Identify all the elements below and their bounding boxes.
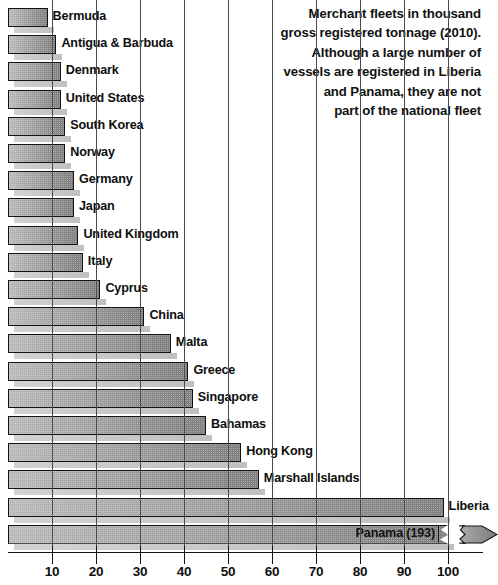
bar-label: Norway [70,143,115,162]
bar-japan[interactable] [8,198,74,217]
bar-label: Hong Kong [246,442,313,461]
bar-label: Denmark [66,61,119,80]
bar-italy[interactable] [8,253,83,272]
bar-shadow [14,81,67,87]
x-axis-tick-label: 10 [45,564,60,579]
bar-label: China [149,306,183,325]
bar-china[interactable] [8,307,144,326]
bar-label: United States [66,89,145,108]
gridline [272,0,273,552]
gridline [184,0,185,552]
bar-shadow [14,462,247,468]
bar-label: Marshall Islands [264,469,360,488]
bar-marshall-islands[interactable] [8,470,259,489]
bar-fill [8,226,78,245]
bar-label: Liberia [449,497,489,516]
x-axis-tick [96,546,97,564]
bar-shadow [14,54,62,60]
bar-label: Bermuda [53,7,107,26]
gridline [228,0,229,552]
x-axis-tick [140,546,141,564]
bar-shadow [14,245,84,251]
bar-bermuda[interactable] [8,8,48,27]
bar-fill [8,498,444,517]
x-axis-tick-label: 80 [353,564,368,579]
bar-bahamas[interactable] [8,416,206,435]
bar-germany[interactable] [8,171,74,190]
gridline [448,0,449,552]
bar-row: Malta [0,332,491,359]
bar-south-korea[interactable] [8,117,65,136]
x-axis-tick [228,546,229,564]
bar-label: Antigua & Barbuda [61,34,173,53]
x-axis-tick [272,546,273,564]
bar-shadow [14,381,194,387]
bar-fill [8,198,74,217]
bar-row: Norway [0,142,491,169]
bar-fill [8,8,48,27]
gridline [140,0,141,552]
bar-fill [8,280,100,299]
bar-shadow [14,435,212,441]
bar-label: Germany [79,170,133,189]
bar-shadow [14,217,80,223]
x-axis: 102030405060708090100 [0,552,491,585]
bar-norway[interactable] [8,144,65,163]
bar-greece[interactable] [8,362,188,381]
bar-label: South Korea [70,116,143,135]
bar-antigua-barbuda[interactable] [8,35,56,54]
bar-label: Cyprus [105,279,148,298]
x-axis-tick [448,546,449,564]
bar-row: Cyprus [0,278,491,305]
bar-shadow [14,163,71,169]
x-axis-tick [360,546,361,564]
x-axis-tick [316,546,317,564]
bar-row: Japan [0,196,491,223]
bar-row: Greece [0,360,491,387]
bar-fill [8,144,65,163]
bar-fill [8,389,193,408]
gridline [316,0,317,552]
x-axis-tick-label: 100 [437,564,459,579]
bar-shadow [14,136,71,142]
bar-united-kingdom[interactable] [8,226,78,245]
bar-fill [8,470,259,489]
bar-fill [8,117,65,136]
gridline [404,0,405,552]
bar-label: Bahamas [211,415,266,434]
bar-label: Panama (193) [356,524,435,543]
bar-fill [8,307,144,326]
bar-row: United States [0,88,491,115]
bar-row: South Korea [0,115,491,142]
bar-row: Liberia [0,496,491,523]
bar-row: Antigua & Barbuda [0,33,491,60]
bar-label: Italy [88,252,112,271]
bar-singapore[interactable] [8,389,193,408]
bar-shadow [14,517,450,523]
x-axis-tick [184,546,185,564]
x-axis-tick-label: 20 [89,564,104,579]
bar-row: Bermuda [0,6,491,33]
bar-shadow [14,326,150,332]
bar-hong-kong[interactable] [8,443,241,462]
bar-cyprus[interactable] [8,280,100,299]
bar-malta[interactable] [8,334,171,353]
bar-row: Singapore [0,387,491,414]
bar-row: Bahamas [0,414,491,441]
bar-shadow [14,190,80,196]
gridline [52,0,53,552]
x-axis-tick [52,546,53,564]
bar-shadow [14,27,54,33]
bar-row: Italy [0,251,491,278]
x-axis-tick-label: 90 [397,564,412,579]
bar-fill [8,171,74,190]
bar-shadow [14,109,67,115]
x-axis-tick-label: 70 [309,564,324,579]
bar-liberia[interactable] [8,498,444,517]
x-axis-tick-label: 50 [221,564,236,579]
bar-row: Germany [0,169,491,196]
bar-fill [8,416,206,435]
bar-row: China [0,305,491,332]
bar-fill [8,443,241,462]
